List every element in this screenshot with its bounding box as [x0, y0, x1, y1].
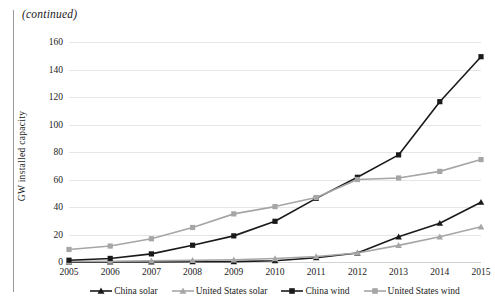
data-point [437, 169, 442, 174]
data-point [437, 99, 442, 104]
legend-label: China wind [305, 286, 349, 296]
y-axis-label: GW installed capacity [17, 111, 27, 202]
x-tick-label-2015: 2015 [472, 267, 491, 277]
data-point [396, 175, 401, 180]
legend-label: United States solar [196, 286, 268, 296]
continued-note: (continued) [22, 8, 77, 20]
x-tick-label-2005: 2005 [60, 267, 79, 277]
data-point [272, 219, 277, 224]
data-point [190, 243, 195, 248]
y-tick-label-40: 40 [54, 202, 64, 212]
data-point [190, 225, 195, 230]
x-tick-label-2009: 2009 [224, 267, 243, 277]
data-point [314, 195, 319, 200]
data-point [66, 247, 71, 252]
data-point [478, 224, 485, 230]
legend-item-united-states-wind[interactable]: United States wind [364, 286, 460, 296]
legend-triangle-marker-icon [90, 286, 112, 296]
y-tick-label-80: 80 [54, 147, 64, 157]
data-point [355, 177, 360, 182]
data-point [272, 204, 277, 209]
y-tick-label-140: 140 [49, 65, 63, 75]
y-tick-label-0: 0 [58, 257, 63, 267]
data-point [231, 233, 236, 238]
y-tick-label-160: 160 [49, 37, 63, 47]
chart-legend: China solarUnited States solarChina wind… [69, 286, 481, 296]
data-point [478, 157, 483, 162]
data-point [108, 243, 113, 248]
x-tick-label-2010: 2010 [266, 267, 285, 277]
data-point [149, 236, 154, 241]
legend-item-united-states-solar[interactable]: United States solar [172, 286, 268, 296]
series-united-states-wind [66, 157, 483, 252]
x-tick-label-2007: 2007 [142, 267, 161, 277]
y-tick-label-120: 120 [49, 92, 63, 102]
legend-item-china-wind[interactable]: China wind [281, 286, 349, 296]
series-china-wind [66, 54, 483, 263]
legend-label: United States wind [388, 286, 460, 296]
data-point [396, 152, 401, 157]
x-tick-label-2013: 2013 [389, 267, 408, 277]
data-point [478, 199, 485, 205]
series-layer [69, 42, 481, 262]
page-canvas: (continued) GW installed capacity 020406… [0, 0, 495, 299]
data-point [108, 256, 113, 261]
x-tick-label-2006: 2006 [101, 267, 120, 277]
legend-item-china-solar[interactable]: China solar [90, 286, 158, 296]
legend-square-marker-icon [281, 286, 303, 296]
x-tick-label-2012: 2012 [348, 267, 367, 277]
data-point [478, 54, 483, 59]
y-tick-label-60: 60 [54, 175, 64, 185]
data-point [231, 211, 236, 216]
data-point [66, 258, 71, 263]
plot-area: 020406080100120140160 200520062007200820… [69, 42, 481, 262]
line-chart: GW installed capacity 020406080100120140… [0, 28, 495, 299]
y-tick-label-100: 100 [49, 120, 63, 130]
legend-label: China solar [114, 286, 158, 296]
series-line [69, 202, 481, 262]
x-tick-label-2014: 2014 [430, 267, 449, 277]
x-tick-label-2008: 2008 [183, 267, 202, 277]
legend-square-marker-icon [364, 286, 386, 296]
data-point [149, 251, 154, 256]
y-tick-label-20: 20 [54, 230, 64, 240]
x-tick-label-2011: 2011 [307, 267, 326, 277]
legend-triangle-marker-icon [172, 286, 194, 296]
